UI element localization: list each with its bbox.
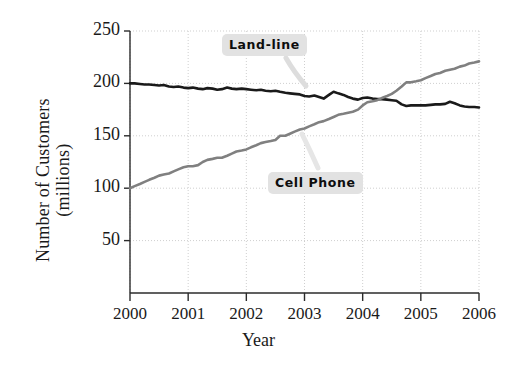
y-axis-title: Number of Customers (millions): [33, 55, 73, 305]
series-label-land-line: Land-line: [222, 34, 307, 56]
x-tick-label: 2003: [277, 304, 333, 324]
gridlines: [130, 31, 479, 293]
x-tick-label: 2000: [102, 304, 158, 324]
x-tick-label: 2001: [160, 304, 216, 324]
x-axis-title: Year: [0, 330, 517, 351]
x-tick-label: 2002: [218, 304, 274, 324]
x-tick-label: 2004: [335, 304, 391, 324]
y-tick-label: 100: [76, 176, 120, 197]
label-leader-lines: [286, 58, 318, 168]
y-tick-label: 50: [76, 229, 120, 250]
x-tick-label: 2006: [451, 304, 507, 324]
y-tick-label: 250: [76, 19, 120, 40]
tick-marks: [124, 31, 479, 301]
series-label-cell-phone: Cell Phone: [268, 172, 363, 194]
y-tick-label: 200: [76, 71, 120, 92]
chart-figure: Number of Customers (millions) Year 5010…: [0, 0, 517, 370]
x-tick-label: 2005: [393, 304, 449, 324]
y-tick-label: 150: [76, 124, 120, 145]
